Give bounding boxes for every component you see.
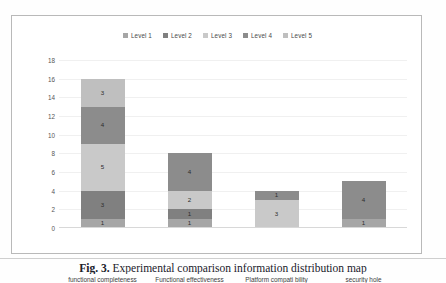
caption-text: Experimental comparison information dist… xyxy=(113,262,367,274)
y-tick-label: 16 xyxy=(31,76,55,83)
figure-caption: Fig. 3. Experimental comparison informat… xyxy=(0,262,446,274)
bar-segment-level-4[interactable]: 4 xyxy=(342,181,386,218)
legend-item-5[interactable]: Level 5 xyxy=(283,32,312,39)
y-tick-label: 18 xyxy=(31,57,55,64)
chart-legend: Level 1Level 2Level 3Level 4Level 5 xyxy=(12,32,423,39)
y-tick-label: 8 xyxy=(31,150,55,157)
bar-3[interactable]: 31 xyxy=(255,191,299,228)
x-axis-label-4: security hole xyxy=(346,276,382,283)
x-axis-line xyxy=(59,227,407,228)
chart-frame: Level 1Level 2Level 3Level 4Level 5 0246… xyxy=(11,15,422,254)
bar-4[interactable]: 14 xyxy=(342,181,386,228)
legend-swatch-icon xyxy=(243,33,248,38)
legend-swatch-icon xyxy=(283,33,288,38)
legend-label: Level 5 xyxy=(291,32,312,39)
bar-1[interactable]: 13543 xyxy=(81,79,125,228)
x-axis-label-1: functional completeness xyxy=(68,276,137,283)
bar-segment-level-4[interactable]: 4 xyxy=(168,153,212,190)
y-tick-label: 6 xyxy=(31,169,55,176)
x-axis-label-3: Platform compati bility xyxy=(245,276,308,283)
legend-swatch-icon xyxy=(123,33,128,38)
legend-item-3[interactable]: Level 3 xyxy=(203,32,232,39)
legend-label: Level 2 xyxy=(171,32,192,39)
legend-label: Level 1 xyxy=(131,32,152,39)
gridline xyxy=(59,60,407,61)
page-rule xyxy=(0,258,446,259)
legend-label: Level 3 xyxy=(211,32,232,39)
y-tick-label: 4 xyxy=(31,188,55,195)
plot-area: 024681012141618 1354311243114 functional… xyxy=(59,60,407,228)
y-tick-label: 12 xyxy=(31,113,55,120)
y-tick-label: 10 xyxy=(31,132,55,139)
bar-segment-level-4[interactable]: 1 xyxy=(255,191,299,200)
legend-swatch-icon xyxy=(163,33,168,38)
bar-segment-level-3[interactable]: 5 xyxy=(81,144,125,191)
y-tick-label: 0 xyxy=(31,225,55,232)
bar-segment-level-2[interactable]: 3 xyxy=(81,191,125,219)
y-tick-label: 2 xyxy=(31,206,55,213)
bar-segment-level-3[interactable]: 2 xyxy=(168,191,212,210)
y-tick-label: 14 xyxy=(31,94,55,101)
caption-label: Fig. 3. xyxy=(79,262,109,274)
legend-swatch-icon xyxy=(203,33,208,38)
bar-segment-level-5[interactable]: 3 xyxy=(81,79,125,107)
legend-item-4[interactable]: Level 4 xyxy=(243,32,272,39)
bar-2[interactable]: 1124 xyxy=(168,153,212,228)
legend-item-1[interactable]: Level 1 xyxy=(123,32,152,39)
bar-segment-level-4[interactable]: 4 xyxy=(81,107,125,144)
legend-label: Level 4 xyxy=(251,32,272,39)
x-axis-label-2: Functional effectiveness xyxy=(155,276,223,283)
bar-segment-level-2[interactable]: 1 xyxy=(168,209,212,218)
bar-segment-level-3[interactable]: 3 xyxy=(255,200,299,228)
legend-item-2[interactable]: Level 2 xyxy=(163,32,192,39)
